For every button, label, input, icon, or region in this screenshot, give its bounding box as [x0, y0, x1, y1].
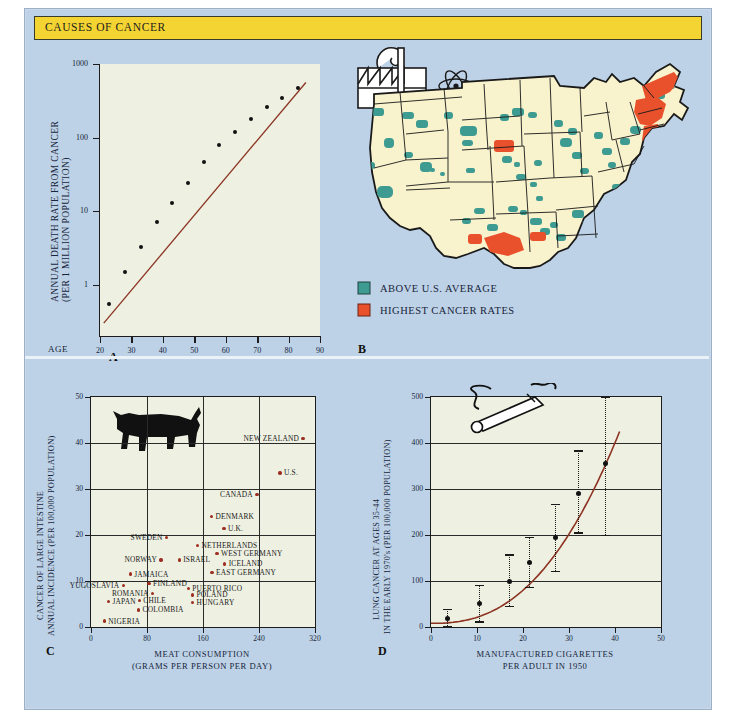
panel-c-point-label: WEST GERMANY — [221, 549, 283, 558]
panel-c-y-tick — [85, 489, 91, 490]
panel-d-x-tick — [569, 627, 570, 633]
panel-d-error-cap-upper — [601, 397, 610, 398]
panel-d-error-cap-upper — [551, 504, 560, 505]
panel-a-data-point — [233, 130, 237, 134]
panel-c-point-label: NEW ZEALAND — [243, 434, 299, 443]
panel-a-x-tick — [100, 336, 101, 343]
panel-a-x-tick-label: 20 — [90, 346, 110, 355]
panel-d-data-point — [553, 535, 558, 540]
panel-c-data-point — [137, 608, 140, 611]
panel-b-cancer-map: ABOVE U.S. AVERAGE HIGHEST CANCER RATES … — [344, 42, 710, 360]
panel-d-y-tick-label: 100 — [399, 576, 423, 585]
panel-d-data-point — [576, 491, 581, 496]
panel-d-data-point — [507, 579, 512, 584]
panel-a-x-tick — [320, 336, 321, 343]
panel-c-x-tick-label: 80 — [135, 634, 159, 643]
panel-a-x-tick — [289, 336, 290, 343]
panel-c-data-point — [301, 437, 304, 440]
panel-d-error-cap-lower — [505, 606, 514, 607]
panel-a-x-tick-label: 40 — [153, 346, 173, 355]
panel-a-y-tick-label: 1000 — [54, 59, 88, 68]
panel-d-x-tick — [431, 627, 432, 633]
panel-c-plot-area: 01020304050080160240320NEW ZEALANDU.S.CA… — [90, 396, 316, 628]
panel-d-y-tick-label: 300 — [399, 484, 423, 493]
panel-c-point-label: SWEDEN — [131, 533, 163, 542]
panel-d-x-tick — [523, 627, 524, 633]
panel-d-error-cap-lower — [601, 535, 610, 536]
panel-a-x-tick-label: 50 — [184, 346, 204, 355]
panel-c-point-label: FINLAND — [153, 579, 187, 588]
panel-c-point-label: EAST GERMANY — [216, 568, 276, 577]
panel-d-x-tick-label: 0 — [419, 634, 443, 643]
panel-c-y-tick — [85, 443, 91, 444]
panel-c-x-tick-label: 240 — [247, 634, 271, 643]
panel-d-y-tick-label: 0 — [399, 622, 423, 631]
panel-c-data-point — [191, 593, 194, 596]
panel-c-point-label: CANADA — [220, 490, 253, 499]
panel-d-letter: D — [378, 644, 387, 659]
panel-c-data-point — [178, 558, 181, 561]
panel-c-x-tick — [147, 627, 148, 633]
panel-c-data-point — [255, 493, 258, 496]
panel-d-y-axis-title: LUNG CANCER AT AGES 35-44 IN THE EARLY 1… — [372, 398, 416, 628]
panel-d-cigarettes-vs-lung-cancer: LUNG CANCER AT AGES 35-44 IN THE EARLY 1… — [358, 382, 710, 708]
panel-c-point-label: JAPAN — [113, 597, 136, 606]
panel-c-gridline-horizontal — [91, 443, 315, 444]
panel-c-data-point — [151, 592, 154, 595]
panel-a-x-tick-label: 80 — [279, 346, 299, 355]
panel-c-y-tick-label: 40 — [59, 438, 83, 447]
panel-c-data-point — [196, 544, 199, 547]
panel-c-y-tick-label: 20 — [59, 530, 83, 539]
panel-a-death-rate-by-age: ANNUAL DEATH RATE FROM CANCER (PER 1 MIL… — [24, 42, 344, 360]
map-legend: ABOVE U.S. AVERAGE HIGHEST CANCER RATES — [358, 282, 515, 316]
panel-a-plot-area: 11010010002030405060708090 — [99, 64, 320, 337]
panel-c-data-point — [222, 527, 225, 530]
panel-a-data-point — [265, 105, 269, 109]
panel-a-x-tick-label: 60 — [216, 346, 236, 355]
panel-d-x-axis-title: MANUFACTURED CIGARETTES PER ADULT IN 195… — [430, 648, 660, 672]
panel-a-x-tick — [257, 336, 258, 343]
panel-a-data-point — [170, 201, 174, 205]
panel-d-x-tick-label: 20 — [511, 634, 535, 643]
panel-a-x-tick-label: 30 — [121, 346, 141, 355]
figure-page: CAUSES OF CANCER ANNUAL DEATH RATE FROM … — [0, 0, 731, 718]
panel-c-data-point — [278, 471, 281, 474]
panel-c-point-label: ISRAEL — [183, 555, 210, 564]
title-bar: CAUSES OF CANCER — [34, 16, 702, 40]
panel-d-error-cap-lower — [525, 587, 534, 588]
panel-c-point-label: U.K. — [228, 524, 243, 533]
page-title: CAUSES OF CANCER — [45, 21, 166, 33]
panel-c-point-label: NIGERIA — [108, 617, 140, 626]
panel-c-y-tick — [85, 397, 91, 398]
panel-d-x-tick — [661, 627, 662, 633]
panel-a-x-tick-label: 70 — [247, 346, 267, 355]
panel-a-x-tick — [226, 336, 227, 343]
panel-c-data-point — [103, 619, 106, 622]
panel-c-data-point — [223, 562, 226, 565]
panel-a-data-point — [249, 117, 253, 121]
panel-d-x-tick-label: 30 — [557, 634, 581, 643]
panel-d-error-cap-lower — [443, 626, 452, 627]
panel-c-x-tick — [315, 627, 316, 633]
panel-c-data-point — [191, 601, 194, 604]
panel-a-x-tick — [131, 336, 132, 343]
panel-d-error-cap-upper — [525, 537, 534, 538]
legend-label-above-average: ABOVE U.S. AVERAGE — [380, 283, 497, 294]
panel-c-y-tick-label: 0 — [59, 622, 83, 631]
panel-c-data-point — [129, 572, 132, 575]
panel-d-y-tick-label: 500 — [399, 392, 423, 401]
panel-c-data-point — [107, 600, 110, 603]
us-cancer-rate-map: ABOVE U.S. AVERAGE HIGHEST CANCER RATES — [344, 42, 710, 360]
panel-divider — [25, 356, 709, 359]
panel-c-x-tick — [91, 627, 92, 633]
panel-c-data-point — [210, 571, 213, 574]
panel-d-error-bar — [605, 397, 607, 535]
panel-d-x-tick — [477, 627, 478, 633]
panel-d-error-cap-lower — [475, 621, 484, 622]
panel-c-data-point — [159, 558, 162, 561]
panel-a-trend-line — [100, 64, 320, 336]
panel-d-error-cap-lower — [551, 571, 560, 572]
panel-b-letter: B — [358, 342, 366, 357]
panel-a-data-point — [123, 270, 127, 274]
cow-icon — [103, 403, 213, 461]
